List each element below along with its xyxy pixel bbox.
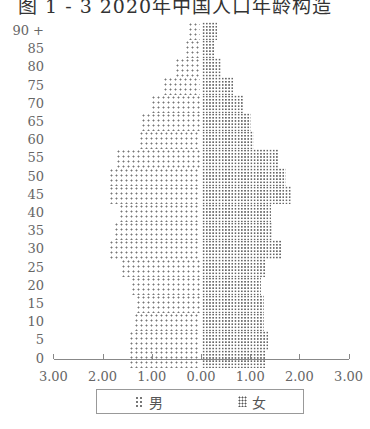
x-axis-line	[54, 359, 349, 360]
legend-label-male: 男	[149, 392, 163, 412]
x-tick-mark	[349, 354, 350, 359]
female-bar	[202, 131, 254, 149]
x-tick-mark	[53, 354, 54, 359]
female-bar	[202, 331, 268, 349]
x-tick-label: 1.00	[137, 369, 166, 384]
male-bar	[114, 222, 200, 240]
male-bar	[116, 149, 200, 167]
female-bar	[202, 22, 217, 40]
female-bar	[202, 277, 261, 295]
x-tick-mark	[152, 354, 153, 359]
x-tick-label: 0.00	[187, 369, 216, 384]
female-bar	[202, 149, 278, 167]
female-bar	[202, 168, 286, 186]
male-bar	[134, 313, 200, 331]
female-bar	[202, 295, 264, 313]
female-bar	[202, 259, 266, 277]
male-bar	[136, 295, 200, 313]
male-bar	[188, 22, 200, 40]
population-pyramid-plot	[0, 0, 370, 370]
female-bar	[202, 204, 271, 222]
male-bar	[151, 95, 200, 113]
male-bar	[119, 204, 200, 222]
male-bar	[139, 131, 201, 149]
x-tick-mark	[201, 354, 202, 359]
female-bar	[202, 77, 234, 95]
male-bar	[175, 58, 200, 76]
male-bar	[109, 168, 200, 186]
x-tick-mark	[250, 354, 251, 359]
male-bar	[131, 277, 200, 295]
female-bar	[202, 58, 222, 76]
male-bar	[121, 259, 200, 277]
x-tick-label: 3.00	[334, 369, 363, 384]
male-bar	[129, 331, 200, 349]
male-pattern-swatch-icon	[135, 396, 144, 407]
female-bar	[202, 186, 291, 204]
female-bar	[202, 240, 281, 258]
legend-label-female: 女	[252, 392, 266, 412]
x-tick-label: 2.00	[88, 369, 117, 384]
female-bar	[202, 40, 214, 58]
chart-legend: 男 女	[96, 389, 304, 414]
female-bar	[202, 113, 251, 131]
male-bar	[185, 40, 200, 58]
x-tick-mark	[299, 354, 300, 359]
x-tick-label: 1.00	[236, 369, 265, 384]
female-bar	[202, 222, 273, 240]
male-bar	[109, 186, 200, 204]
male-bar	[141, 113, 200, 131]
male-bar	[163, 77, 200, 95]
female-bar	[202, 95, 244, 113]
x-tick-label: 3.00	[39, 369, 68, 384]
x-tick-mark	[103, 354, 104, 359]
female-pattern-swatch-icon	[238, 396, 247, 407]
x-tick-label: 2.00	[285, 369, 314, 384]
legend-item-female: 女	[238, 392, 266, 412]
male-bar	[109, 240, 200, 258]
legend-item-male: 男	[135, 392, 163, 412]
female-bar	[202, 313, 264, 331]
